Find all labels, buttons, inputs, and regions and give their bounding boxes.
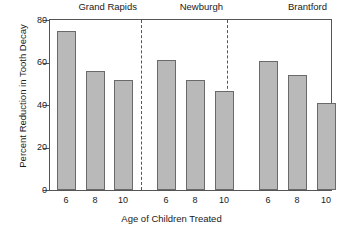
bar (157, 60, 176, 190)
group-divider (141, 20, 142, 190)
bars-layer (50, 20, 331, 190)
bar (114, 80, 133, 191)
bar (186, 80, 205, 191)
x-tick-label: 6 (154, 196, 178, 205)
x-tick-label: 10 (111, 196, 135, 205)
x-tick-label: 10 (212, 196, 236, 205)
y-tick-label: 60 (37, 58, 47, 67)
bar (215, 91, 234, 190)
group-label: Brantford (0, 2, 327, 12)
bar (86, 71, 105, 190)
bar (288, 75, 307, 190)
bar-chart: Percent Reduction in Tooth Decay 0204060… (0, 0, 343, 239)
y-tick-label: 40 (37, 101, 47, 110)
x-tick-label: 6 (54, 196, 78, 205)
bar (57, 31, 76, 190)
y-axis-title: Percent Reduction in Tooth Decay (18, 10, 28, 182)
y-tick-label: 0 (42, 186, 47, 195)
y-tick-label: 80 (37, 16, 47, 25)
x-tick-label: 8 (83, 196, 107, 205)
x-axis-title: Age of Children Treated (0, 214, 343, 224)
x-tick-label: 10 (314, 196, 338, 205)
x-tick-label: 6 (256, 196, 280, 205)
bar (259, 61, 278, 190)
y-tick-label: 20 (37, 143, 47, 152)
bar (317, 103, 336, 190)
x-tick-label: 8 (285, 196, 309, 205)
x-tick-label: 8 (183, 196, 207, 205)
